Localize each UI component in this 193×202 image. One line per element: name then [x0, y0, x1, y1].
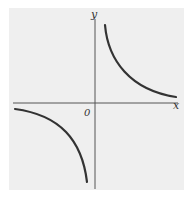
x-axis-label: x	[173, 100, 179, 111]
hyperbola-graph	[0, 0, 193, 202]
curve-lower-left-branch	[15, 109, 87, 182]
origin-label: 0	[84, 108, 90, 118]
y-axis-label: y	[91, 9, 97, 20]
curve-upper-right-branch	[105, 25, 176, 97]
